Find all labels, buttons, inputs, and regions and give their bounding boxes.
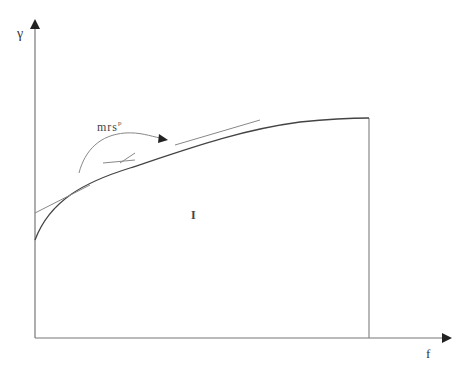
tangent-line-small [103, 160, 135, 163]
x-axis-arrowhead-icon [442, 333, 452, 343]
mrs-annotation-label: mrsp [97, 120, 122, 133]
tangent-line-small-cross [120, 153, 135, 163]
mrs-annotation-superscript: p [118, 119, 122, 127]
diagram-canvas [0, 0, 467, 370]
y-axis-arrowhead-icon [30, 19, 40, 29]
region-label: I [191, 209, 196, 221]
main-curve [35, 118, 369, 240]
mrs-annotation-text: mrs [97, 120, 118, 134]
x-axis-label: f [426, 347, 430, 360]
tangent-line-lower [35, 185, 90, 213]
annotation-arrow [79, 133, 160, 173]
annotation-arrowhead-icon [158, 134, 168, 143]
y-axis-label: γ [17, 27, 23, 41]
